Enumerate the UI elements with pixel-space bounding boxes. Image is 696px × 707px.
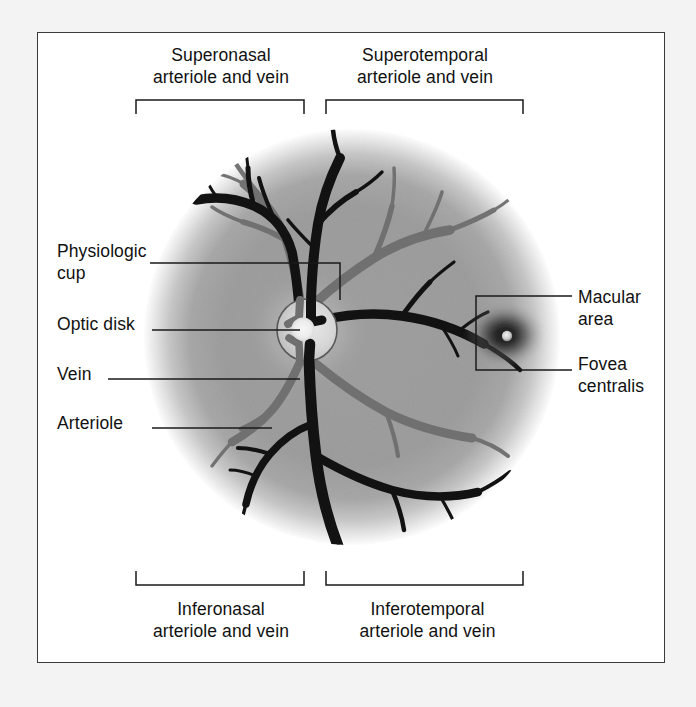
inferonasal-bracket [136, 571, 304, 585]
label-vein: Vein [57, 363, 137, 385]
superotemporal-bracket [326, 100, 523, 114]
label-superonasal: Superonasal arteriole and vein [136, 44, 306, 88]
label-superotemporal: Superotemporal arteriole and vein [325, 44, 525, 88]
label-inferotemporal: Inferotemporal arteriole and vein [325, 598, 530, 642]
page-background: Superonasal arteriole and vein Superotem… [0, 0, 696, 707]
label-physiologic-cup: Physiologic cup [57, 240, 177, 284]
label-arteriole: Arteriole [57, 412, 167, 434]
label-optic-disk: Optic disk [57, 313, 187, 335]
superonasal-bracket [136, 100, 304, 114]
label-inferonasal: Inferonasal arteriole and vein [136, 598, 306, 642]
label-macular-area: Macular area [578, 286, 673, 330]
macula-group [465, 302, 545, 368]
inferotemporal-bracket [326, 571, 523, 585]
label-fovea-centralis: Fovea centralis [578, 353, 678, 397]
